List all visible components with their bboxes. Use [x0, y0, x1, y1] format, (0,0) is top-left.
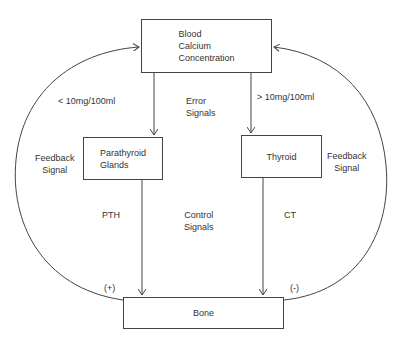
ct-label: CT — [284, 209, 296, 221]
node-bone: Bone — [123, 297, 284, 329]
feedback-signal-right-label: Feedback Signal — [327, 150, 367, 174]
node-label: Parathyroid Glands — [100, 147, 146, 171]
node-label: Thyroid — [266, 151, 296, 163]
feedback-signal-left-label: Feedback Signal — [35, 152, 75, 176]
control-signals-label: Control Signals — [184, 209, 214, 233]
node-parathyroid-glands: Parathyroid Glands — [83, 137, 163, 180]
node-blood-calcium-concentration: Blood Calcium Concentration — [141, 19, 272, 73]
pth-label: PTH — [102, 209, 120, 221]
node-thyroid: Thyroid — [241, 135, 322, 178]
node-label: Blood Calcium Concentration — [178, 28, 234, 64]
low-threshold-label: < 10mg/100ml — [58, 95, 115, 107]
error-signals-label: Error Signals — [186, 95, 216, 119]
high-threshold-label: > 10mg/100ml — [257, 91, 314, 103]
node-label: Bone — [193, 307, 214, 319]
positive-effect-label: (+) — [104, 282, 115, 294]
negative-effect-label: (-) — [290, 282, 299, 294]
